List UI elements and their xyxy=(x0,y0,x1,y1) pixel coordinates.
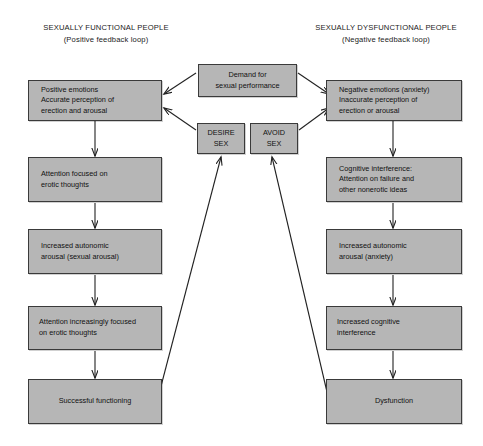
right-column-subtitle: (Negative feedback loop) xyxy=(295,34,477,46)
node-left-increased-autonomic-arousal[interactable]: Increased autonomic arousal (sexual arou… xyxy=(28,229,162,274)
node-right-dysfunction[interactable]: Dysfunction xyxy=(326,379,462,424)
node-right-increased-cognitive-interference[interactable]: Increased cognitive interference xyxy=(326,306,462,350)
node-label: Dysfunction xyxy=(327,396,461,407)
node-label: Attention increasingly focused on erotic… xyxy=(29,317,161,338)
right-column-title: SEXUALLY DYSFUNCTIONAL PEOPLE xyxy=(315,23,456,32)
node-left-successful-functioning[interactable]: Successful functioning xyxy=(28,379,162,424)
diagram-canvas: SEXUALLY FUNCTIONAL PEOPLE (Positive fee… xyxy=(0,0,483,446)
node-label: Negative emotions (anxiety) Inaccurate p… xyxy=(327,85,461,117)
left-column-header: SEXUALLY FUNCTIONAL PEOPLE (Positive fee… xyxy=(18,22,194,45)
node-label: Positive emotions Accurate perception of… xyxy=(29,85,161,117)
node-left-attention-increasingly-focused[interactable]: Attention increasingly focused on erotic… xyxy=(28,306,162,350)
node-desire-sex[interactable]: DESIRE SEX xyxy=(197,123,245,154)
node-label: Cognitive interference: Attention on fai… xyxy=(327,164,461,196)
node-label: Successful functioning xyxy=(29,396,161,407)
node-right-negative-emotions[interactable]: Negative emotions (anxiety) Inaccurate p… xyxy=(326,80,462,121)
left-column-subtitle: (Positive feedback loop) xyxy=(18,34,194,46)
node-right-cognitive-interference[interactable]: Cognitive interference: Attention on fai… xyxy=(326,157,462,202)
left-column-title: SEXUALLY FUNCTIONAL PEOPLE xyxy=(43,23,168,32)
node-left-attention-focused[interactable]: Attention focused on erotic thoughts xyxy=(28,157,162,202)
node-label: AVOID SEX xyxy=(251,128,297,149)
node-label: Demand for sexual performance xyxy=(199,70,296,91)
node-label: Attention focused on erotic thoughts xyxy=(29,169,161,190)
node-label: Increased autonomic arousal (anxiety) xyxy=(327,241,461,262)
node-avoid-sex[interactable]: AVOID SEX xyxy=(250,123,298,154)
node-demand-for-sexual-performance[interactable]: Demand for sexual performance xyxy=(198,64,297,97)
node-label: Increased cognitive interference xyxy=(327,317,461,338)
node-left-positive-emotions[interactable]: Positive emotions Accurate perception of… xyxy=(28,80,162,121)
node-label: DESIRE SEX xyxy=(198,128,244,149)
node-label: Increased autonomic arousal (sexual arou… xyxy=(29,241,161,262)
node-right-increased-autonomic-arousal[interactable]: Increased autonomic arousal (anxiety) xyxy=(326,229,462,274)
right-column-header: SEXUALLY DYSFUNCTIONAL PEOPLE (Negative … xyxy=(295,22,477,45)
